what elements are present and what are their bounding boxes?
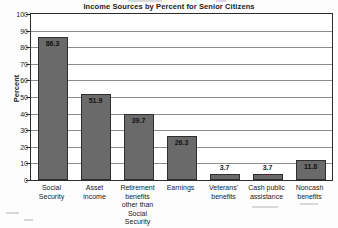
x-tick-label: Retirementbenefitsother thanSocial Secur… [116, 184, 159, 227]
bar-column: 26.3 [167, 136, 197, 180]
grid-line [31, 114, 332, 115]
bar-value-label: 3.7 [254, 164, 282, 171]
x-tick-label-line: Retirement [116, 184, 159, 193]
x-tick-label-line: Cash public [245, 184, 288, 193]
y-tick-label: 70 [2, 60, 28, 67]
y-tick-label: 60 [2, 77, 28, 84]
bar-chart: Income Sources by Percent for Senior Cit… [0, 0, 338, 228]
grid-line [31, 64, 332, 65]
plot-area: 86.351.939.726.33.73.711.8 [30, 13, 333, 181]
scan-artifact [252, 206, 278, 208]
bar-value-label: 11.8 [297, 163, 325, 170]
scan-artifact [216, 0, 226, 2]
grid-line [31, 80, 332, 81]
y-tick-label: 30 [2, 127, 28, 134]
bar-value-label: 3.7 [211, 164, 239, 171]
y-tick-label: 20 [2, 143, 28, 150]
bar[interactable]: 3.7 [210, 174, 240, 180]
bar[interactable]: 39.7 [124, 114, 154, 180]
bar-column: 3.7 [210, 174, 240, 180]
y-tick-label: 50 [2, 94, 28, 101]
bar[interactable]: 3.7 [253, 174, 283, 180]
bar-value-label: 26.3 [168, 139, 196, 146]
y-tick-label: 0 [2, 177, 28, 184]
bar[interactable]: 51.9 [81, 94, 111, 180]
scan-artifact [300, 203, 318, 205]
x-tick-label-line: Earnings [159, 184, 202, 193]
bar[interactable]: 86.3 [38, 37, 68, 180]
x-tick-label-line: Veterans' [202, 184, 245, 193]
x-tick-label-line: benefits [288, 193, 331, 202]
bar-column: 39.7 [124, 114, 154, 180]
x-tick-label-line: Noncash [288, 184, 331, 193]
grid-line [31, 130, 332, 131]
x-tick-label-line: benefits [202, 193, 245, 202]
y-tick-label: 10 [2, 160, 28, 167]
scan-artifact [24, 219, 33, 221]
x-tick-label-line: Asset [73, 184, 116, 193]
bar[interactable]: 26.3 [167, 136, 197, 180]
grid-line [31, 47, 332, 48]
x-tick-label-line: income [73, 193, 116, 202]
x-tick-label: Cash publicassistance [245, 184, 288, 201]
y-tick-label: 90 [2, 27, 28, 34]
x-tick-label: SocialSecurity [30, 184, 73, 201]
bar-column: 86.3 [38, 37, 68, 180]
chart-title: Income Sources by Percent for Senior Cit… [0, 2, 338, 11]
x-tick-label-line: Security [30, 193, 73, 202]
bar-value-label: 51.9 [82, 97, 110, 104]
x-tick-label-line: benefits [116, 193, 159, 202]
x-tick-label-line: Social Security [116, 210, 159, 227]
bar-column: 11.8 [296, 160, 326, 180]
bar[interactable]: 11.8 [296, 160, 326, 180]
y-tick-label: 100 [2, 11, 28, 18]
x-tick-label: Noncashbenefits [288, 184, 331, 201]
bar-column: 3.7 [253, 174, 283, 180]
x-tick-label-line: other than [116, 201, 159, 210]
x-tick-label-line: Social [30, 184, 73, 193]
grid-line [31, 31, 332, 32]
bar-value-label: 39.7 [125, 117, 153, 124]
x-tick-label-line: assistance [245, 193, 288, 202]
bar-column: 51.9 [81, 94, 111, 180]
x-tick-label: Assetincome [73, 184, 116, 201]
y-tick-label: 40 [2, 110, 28, 117]
scan-artifact [128, 0, 162, 2]
bar-value-label: 86.3 [39, 40, 67, 47]
x-tick-label: Earnings [159, 184, 202, 193]
grid-line [31, 97, 332, 98]
x-tick-label: Veterans'benefits [202, 184, 245, 201]
scan-artifact [6, 212, 19, 214]
y-tick-label: 80 [2, 44, 28, 51]
